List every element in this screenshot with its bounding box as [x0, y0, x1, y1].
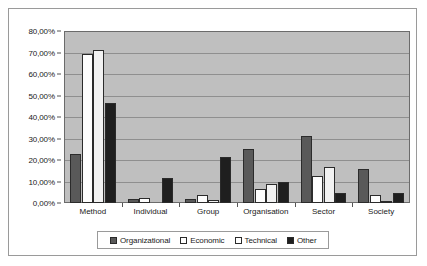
bar — [185, 199, 196, 203]
y-axis-tick-label: 40,00% — [28, 113, 55, 122]
bar — [381, 201, 392, 203]
bar — [312, 176, 323, 203]
y-axis-tick-mark — [57, 52, 61, 53]
legend-item: Organizational — [110, 236, 170, 245]
y-axis-tick-label: 30,00% — [28, 134, 55, 143]
y-axis-tick-mark — [57, 31, 61, 32]
bar — [393, 193, 404, 203]
legend-label: Organizational — [120, 236, 170, 245]
bar-group — [295, 31, 353, 203]
bar — [358, 169, 369, 203]
bar — [220, 157, 231, 203]
bar — [370, 195, 381, 203]
y-axis-tick-mark — [57, 117, 61, 118]
y-axis-tick-label: 70,00% — [28, 48, 55, 57]
y-axis-tick-label: 10,00% — [28, 177, 55, 186]
y-axis-tick-mark — [57, 74, 61, 75]
bar — [278, 182, 289, 203]
bar-group — [352, 31, 410, 203]
bar — [105, 103, 116, 203]
bar — [208, 200, 219, 203]
x-axis-tick-mark — [295, 203, 296, 207]
legend-item: Economic — [180, 236, 224, 245]
bar — [197, 195, 208, 203]
bar — [93, 50, 104, 203]
bar-group — [122, 31, 180, 203]
bar — [243, 149, 254, 203]
chart-frame: 0,00%10,00%20,00%30,00%40,00%50,00%60,00… — [8, 8, 417, 256]
bar — [70, 154, 81, 203]
bar-group — [64, 31, 122, 203]
bar — [128, 199, 139, 203]
bar-group — [237, 31, 295, 203]
y-axis-tick-label: 0,00% — [33, 199, 55, 208]
legend-swatch-icon — [235, 237, 242, 244]
x-axis-tick-label: Sector — [312, 207, 335, 216]
y-axis-tick-mark — [57, 181, 61, 182]
bar — [324, 167, 335, 203]
x-axis-tick-label: Group — [197, 207, 219, 216]
legend-label: Technical — [245, 236, 277, 245]
x-axis-tick-mark — [179, 203, 180, 207]
bar — [301, 136, 312, 203]
x-axis-tick-label: Organisation — [243, 207, 288, 216]
legend-label: Economic — [190, 236, 224, 245]
legend-swatch-icon — [287, 237, 294, 244]
legend-item: Other — [287, 236, 317, 245]
legend-item: Technical — [235, 236, 277, 245]
bar — [335, 193, 346, 203]
y-axis-tick-mark — [57, 138, 61, 139]
bar — [255, 189, 266, 203]
x-axis-tick-mark — [237, 203, 238, 207]
x-axis-tick-mark — [352, 203, 353, 207]
x-axis-tick-label: Society — [368, 207, 394, 216]
y-axis: 0,00%10,00%20,00%30,00%40,00%50,00%60,00… — [9, 31, 61, 203]
x-axis-tick-label: Individual — [134, 207, 168, 216]
bar — [162, 178, 173, 203]
bar — [139, 198, 150, 203]
legend-label: Other — [297, 236, 317, 245]
x-axis-tick-label: Method — [79, 207, 106, 216]
x-axis-tick-mark — [122, 203, 123, 207]
legend-swatch-icon — [180, 237, 187, 244]
legend-swatch-icon — [110, 237, 117, 244]
y-axis-tick-label: 80,00% — [28, 27, 55, 36]
bars-layer — [64, 31, 410, 203]
y-axis-tick-label: 20,00% — [28, 156, 55, 165]
bar — [82, 54, 93, 203]
y-axis-tick-mark — [57, 203, 61, 204]
bar-group — [179, 31, 237, 203]
bar — [266, 184, 277, 203]
x-axis: MethodIndividualGroupOrganisationSectorS… — [64, 207, 410, 223]
y-axis-tick-mark — [57, 95, 61, 96]
y-axis-tick-label: 50,00% — [28, 91, 55, 100]
chart-legend: OrganizationalEconomicTechnicalOther — [97, 231, 329, 249]
y-axis-tick-label: 60,00% — [28, 70, 55, 79]
y-axis-tick-mark — [57, 160, 61, 161]
